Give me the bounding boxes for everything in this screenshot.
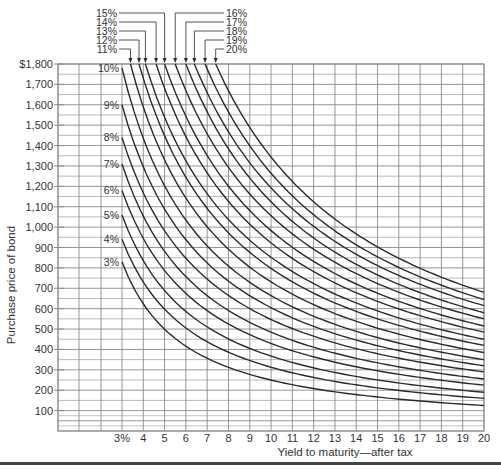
x-axis-title: Yield to maturity—after tax <box>277 446 412 458</box>
x-tick-label: 17 <box>414 432 426 444</box>
x-tick-label: 12 <box>308 432 320 444</box>
y-tick-label: 900 <box>35 242 53 254</box>
bottom-rule <box>0 462 501 465</box>
yield-curve-10pct <box>122 68 484 360</box>
bond-price-chart: $1,8001,7001,6001,5001,4001,3001,2001,10… <box>0 0 501 469</box>
curve-label: 7% <box>104 158 119 170</box>
y-tick-label: 800 <box>35 262 53 274</box>
y-axis-ticks: $1,8001,7001,6001,5001,4001,3001,2001,10… <box>19 58 64 417</box>
x-tick-label: 16 <box>393 432 405 444</box>
curve-label: 4% <box>104 233 119 245</box>
y-tick-label: 1,500 <box>25 119 53 131</box>
x-tick-label: 3% <box>114 432 130 444</box>
yield-curve-14pct <box>156 64 484 332</box>
curve-label: 10% <box>98 62 119 74</box>
x-tick-label: 14 <box>350 432 362 444</box>
curve-label: 11% <box>97 43 117 55</box>
yield-curve-7pct <box>122 164 484 379</box>
x-tick-label: 15 <box>371 432 383 444</box>
curve-label: 3% <box>104 256 119 268</box>
x-tick-label: 13 <box>329 432 341 444</box>
chart-grid <box>58 64 484 431</box>
x-axis-ticks: 3%4567891011121314151617181920 <box>114 432 490 444</box>
y-tick-label: 1,100 <box>25 201 53 213</box>
x-tick-label: 11 <box>287 432 298 444</box>
top-curve-labels: 15%14%13%12%11%16%17%18%19%20% <box>96 7 247 63</box>
x-tick-label: 20 <box>478 432 490 444</box>
y-tick-label: 200 <box>35 384 53 396</box>
y-tick-label: 1,400 <box>25 140 53 152</box>
y-tick-label: 1,600 <box>25 99 53 111</box>
y-tick-label: 1,200 <box>25 180 53 192</box>
x-tick-label: 4 <box>140 432 146 444</box>
x-tick-label: 5 <box>162 432 168 444</box>
y-tick-label: 300 <box>35 364 53 376</box>
x-tick-label: 7 <box>204 432 210 444</box>
y-tick-label: 600 <box>35 303 53 315</box>
y-tick-label: 1,700 <box>25 78 53 90</box>
curve-label: 5% <box>104 209 119 221</box>
x-tick-label: 19 <box>457 432 469 444</box>
y-tick-label: 500 <box>35 323 53 335</box>
y-tick-label: 700 <box>35 282 53 294</box>
y-tick-label: 1,300 <box>25 160 53 172</box>
x-tick-label: 10 <box>265 432 277 444</box>
curve-label: 6% <box>104 184 119 196</box>
y-tick-label: $1,800 <box>19 58 53 70</box>
y-tick-label: 400 <box>35 343 53 355</box>
curve-label: 20% <box>226 43 247 55</box>
x-tick-label: 9 <box>247 432 253 444</box>
curve-label: 8% <box>104 131 119 143</box>
x-tick-label: 18 <box>435 432 447 444</box>
x-tick-label: 6 <box>183 432 189 444</box>
x-tick-label: 8 <box>225 432 231 444</box>
y-axis-title: Purchase price of bond <box>5 226 17 344</box>
curve-label: 9% <box>104 99 119 111</box>
y-tick-label: 1,000 <box>25 221 53 233</box>
yield-curve-18pct <box>194 64 484 306</box>
y-tick-label: 100 <box>35 405 53 417</box>
